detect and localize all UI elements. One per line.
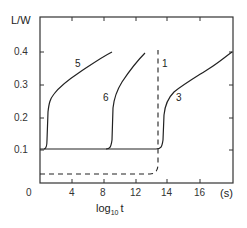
x-axis-title-var: t (120, 202, 123, 214)
x-tick-label: 8 (100, 187, 106, 198)
x-unit-label: (s) (220, 187, 233, 199)
x-tick-label: 14 (161, 187, 173, 198)
curve-1-dashed (40, 50, 158, 174)
y-tick-label: 0.1 (14, 144, 28, 155)
chart: 0.4 0.3 0.2 0.1 0 4 8 12 14 16 (s) L/W l… (0, 0, 247, 228)
y-tick-label: 0.3 (14, 79, 28, 90)
x-axis-ticks (72, 179, 200, 183)
x-axis-title-sub: 10 (111, 209, 119, 216)
x-tick-label: 16 (194, 187, 206, 198)
curve-label-5: 5 (75, 58, 81, 69)
right-axis-ticks (229, 52, 233, 150)
x-axis-title: log10t (96, 202, 124, 216)
x-tick-label: 4 (69, 187, 75, 198)
curve-6 (106, 53, 145, 149)
curve-label-1: 1 (162, 58, 168, 69)
plot-frame (40, 17, 233, 183)
x-axis-title-main: log (96, 202, 111, 214)
y-axis-title: L/W (11, 14, 31, 26)
curve-label-3: 3 (176, 92, 182, 103)
y-tick-label: 0.4 (14, 46, 28, 57)
x-tick-label: 0 (26, 187, 32, 198)
x-tick-label: 12 (130, 187, 142, 198)
curve-label-6: 6 (103, 92, 109, 103)
y-tick-label: 0.2 (14, 112, 28, 123)
